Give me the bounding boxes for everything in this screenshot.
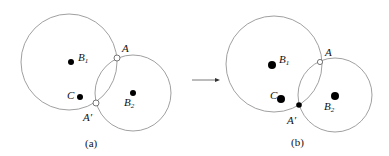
point-b1 xyxy=(68,59,74,65)
point-a-prime xyxy=(296,102,302,108)
label-b1: B1 xyxy=(279,53,289,67)
point-a xyxy=(114,55,120,61)
label-b1: B1 xyxy=(78,51,88,65)
caption-b: (b) xyxy=(291,136,304,149)
point-b2 xyxy=(130,90,136,96)
label-a: A xyxy=(121,42,129,54)
circle-diagram: B1 A C A′ B2 (a) B1 A C A′ B2 (b) xyxy=(0,0,389,156)
label-c: C xyxy=(67,89,75,101)
arrow xyxy=(192,78,220,82)
label-a: A xyxy=(324,46,332,58)
diagram: B1 A C A′ B2 (a) B1 A C A′ B2 (b) xyxy=(0,0,389,156)
panel-b: B1 A C A′ B2 (b) xyxy=(226,16,372,149)
point-c xyxy=(77,94,83,100)
label-a-prime: A′ xyxy=(286,114,297,126)
point-b2 xyxy=(331,92,339,100)
caption-a: (a) xyxy=(85,137,98,150)
point-c xyxy=(277,95,285,103)
panel-a: B1 A C A′ B2 (a) xyxy=(21,14,171,150)
label-b2: B2 xyxy=(324,100,335,114)
point-a-prime xyxy=(93,100,99,106)
point-a xyxy=(317,59,322,64)
point-b1 xyxy=(268,61,276,69)
label-b2: B2 xyxy=(124,96,135,110)
label-c: C xyxy=(270,89,278,101)
label-a-prime: A′ xyxy=(82,111,93,123)
